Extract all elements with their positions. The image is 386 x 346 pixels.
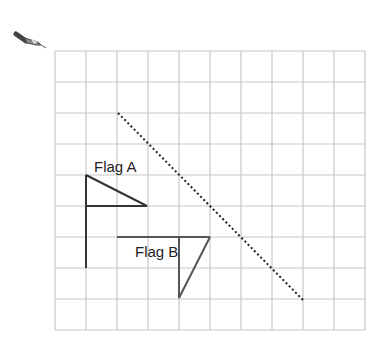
pen-icon[interactable] [16, 34, 46, 48]
diagram-canvas: Flag A Flag B [0, 0, 386, 346]
flag-a-label: Flag A [94, 158, 137, 175]
flag-b-label: Flag B [135, 243, 178, 260]
grid [55, 51, 365, 330]
